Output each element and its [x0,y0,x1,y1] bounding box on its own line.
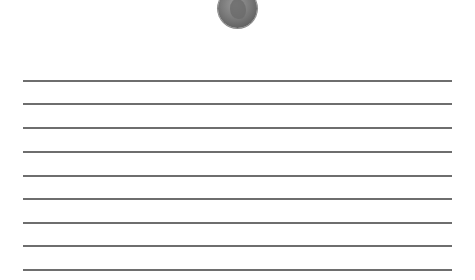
writing-line [23,80,452,82]
writing-line [23,175,452,177]
writing-line [23,245,452,247]
writing-lines [0,0,475,280]
writing-line [23,222,452,224]
writing-line [23,103,452,105]
writing-line [23,269,452,271]
writing-line [23,151,452,153]
writing-line [23,127,452,129]
writing-line [23,198,452,200]
